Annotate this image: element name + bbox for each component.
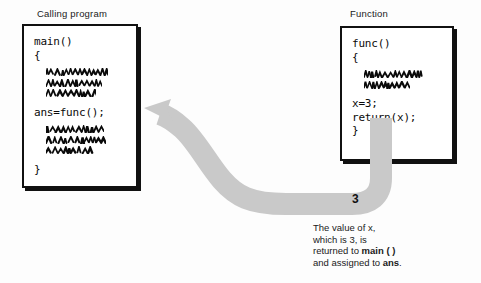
- calling-program-caption: Calling program: [37, 8, 107, 19]
- function-caption: Function: [350, 8, 388, 19]
- code-line: }: [34, 163, 132, 177]
- explanation-line-4-prefix: and assigned to: [313, 257, 383, 268]
- explanation-line-3-prefix: returned to: [313, 245, 362, 256]
- placeholder-code-squiggle: [34, 146, 132, 154]
- calling-program-code: main(){ans=func();}: [34, 35, 132, 176]
- explanation-line-4-suffix: .: [399, 257, 402, 268]
- code-line: func(): [352, 37, 448, 51]
- code-line: {: [34, 49, 132, 63]
- code-line: x=3;: [352, 97, 448, 111]
- code-line: {: [352, 51, 448, 65]
- explanation-line-4: and assigned to ans.: [313, 257, 402, 269]
- explanation-caption: The value of x, which is 3, is returned …: [313, 222, 402, 268]
- placeholder-code-squiggle: [34, 68, 132, 76]
- explanation-line-3: returned to main ( ): [313, 245, 402, 257]
- calling-program-box: main(){ans=func();}: [22, 24, 138, 188]
- explanation-line-4-bold: ans: [383, 257, 399, 268]
- explanation-line-3-bold: main ( ): [362, 245, 396, 256]
- function-code: func(){x=3;return(x);}: [352, 37, 448, 138]
- placeholder-code-squiggle: [34, 89, 132, 97]
- explanation-line-1: The value of x,: [313, 222, 402, 234]
- placeholder-code-squiggle: [34, 125, 132, 133]
- return-value-label: 3: [352, 192, 359, 206]
- placeholder-code-squiggle: [34, 79, 132, 87]
- code-line: }: [352, 124, 448, 138]
- placeholder-code-squiggle: [352, 70, 448, 78]
- code-line: ans=func();: [34, 106, 132, 120]
- code-line: main(): [34, 35, 132, 49]
- explanation-line-2: which is 3, is: [313, 234, 402, 246]
- function-box: func(){x=3;return(x);}: [340, 26, 454, 161]
- diagram-canvas: Calling program Function main(){ans=func…: [0, 0, 481, 283]
- placeholder-code-squiggle: [34, 136, 132, 144]
- code-line: return(x);: [352, 111, 448, 125]
- placeholder-code-squiggle: [352, 81, 448, 89]
